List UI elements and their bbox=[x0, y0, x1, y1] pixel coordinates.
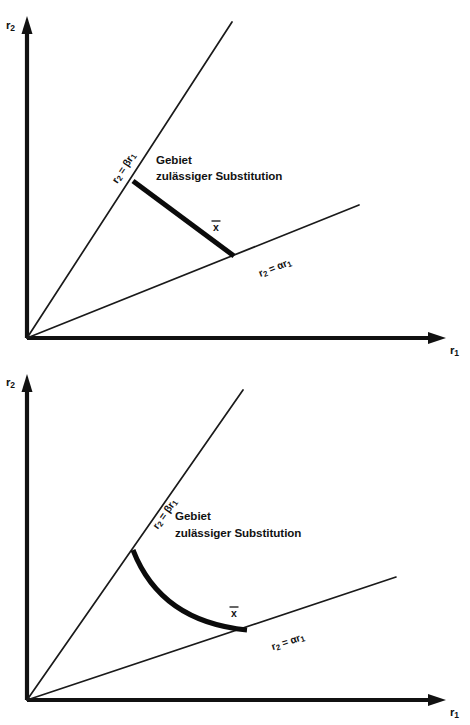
ray-alpha-line bbox=[27, 577, 396, 700]
region-label-line1: Gebiet bbox=[156, 153, 192, 166]
ray-alpha-label: r2 = αr1 bbox=[257, 256, 294, 281]
figure-panel-curved: r2 r1 r2 = βr1 r2 = αr1 Gebiet zulässige… bbox=[0, 362, 470, 725]
isoquant-label-group: x bbox=[212, 221, 221, 233]
region-label-line2: zulässiger Substitution bbox=[175, 526, 301, 539]
y-axis-label: r2 bbox=[6, 19, 15, 33]
figure-panel-linear: r2 r1 r2 = βr1 r2 = αr1 Gebiet zulässige… bbox=[0, 0, 470, 362]
diagram-canvas-linear: r2 r1 r2 = βr1 r2 = αr1 Gebiet zulässige… bbox=[0, 0, 470, 362]
isoquant-curve bbox=[133, 550, 247, 630]
x-axis-label: r1 bbox=[450, 344, 459, 358]
ray-alpha-label: r2 = αr1 bbox=[270, 630, 307, 653]
y-axis-arrow-icon bbox=[22, 374, 33, 392]
x-axis-arrow-icon bbox=[428, 694, 446, 706]
region-label-line1: Gebiet bbox=[175, 509, 211, 522]
isoquant-label-group: x bbox=[230, 607, 239, 619]
ray-alpha-label-group: r2 = αr1 bbox=[270, 630, 307, 653]
isoquant-label: x bbox=[213, 221, 219, 233]
isoquant-linear-segment bbox=[133, 181, 234, 256]
diagram-canvas-curved: r2 r1 r2 = βr1 r2 = αr1 Gebiet zulässige… bbox=[0, 362, 470, 725]
y-axis-label: r2 bbox=[6, 376, 15, 390]
x-axis-arrow-icon bbox=[428, 332, 446, 344]
ray-alpha-label-group: r2 = αr1 bbox=[257, 256, 294, 281]
x-axis-label: r1 bbox=[450, 706, 459, 720]
ray-beta-line bbox=[27, 390, 243, 700]
y-axis-arrow-icon bbox=[22, 16, 33, 34]
isoquant-label: x bbox=[231, 607, 237, 619]
region-label-line2: zulässiger Substitution bbox=[156, 169, 282, 182]
